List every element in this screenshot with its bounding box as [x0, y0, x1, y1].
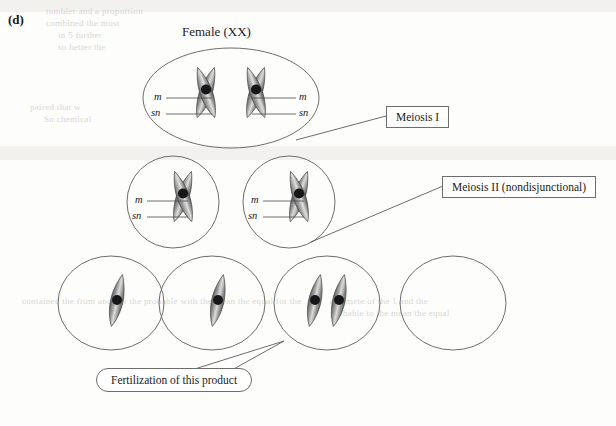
allele-label-m1-left-m: m	[135, 194, 143, 205]
cell-gamete-1	[58, 256, 164, 350]
chromosome-gamete-2	[206, 273, 229, 327]
callout-meiosis-2[interactable]: Meiosis II (nondisjunctional)	[442, 176, 596, 198]
leader-meiosis2	[311, 186, 443, 242]
diagram-canvas	[0, 0, 616, 426]
chromosome-gamete-3a	[303, 273, 326, 327]
allele-label-parent-right-m: m	[299, 91, 307, 102]
leader-meiosis1	[296, 116, 386, 140]
allele-label-parent-left-sn: sn	[151, 107, 160, 118]
chromosome-parent-right	[241, 65, 270, 119]
cell-gamete-4-nullo	[400, 256, 506, 350]
cell-gamete-3-disomic	[274, 256, 380, 350]
cell-parent	[143, 48, 319, 148]
chromosome-parent-left	[191, 65, 220, 119]
chromosome-gamete-3b	[327, 273, 350, 327]
allele-label-parent-left-m: m	[154, 91, 162, 102]
allele-label-m1-left-sn: sn	[132, 210, 141, 221]
callout-meiosis-1[interactable]: Meiosis I	[386, 106, 449, 128]
allele-label-m1-right-m: m	[251, 194, 259, 205]
allele-label-m1-right-sn: sn	[248, 210, 257, 221]
allele-label-parent-right-sn: sn	[299, 107, 308, 118]
callout-fertilization[interactable]: Fertilization of this product	[96, 368, 252, 392]
cell-gamete-2	[159, 256, 265, 350]
figure-panel: tumbler and a proportion combined the mo…	[0, 0, 616, 426]
chromosome-gamete-1	[105, 273, 128, 327]
chromosome-m1-left	[168, 169, 197, 223]
chromosome-m1-right	[284, 169, 313, 223]
